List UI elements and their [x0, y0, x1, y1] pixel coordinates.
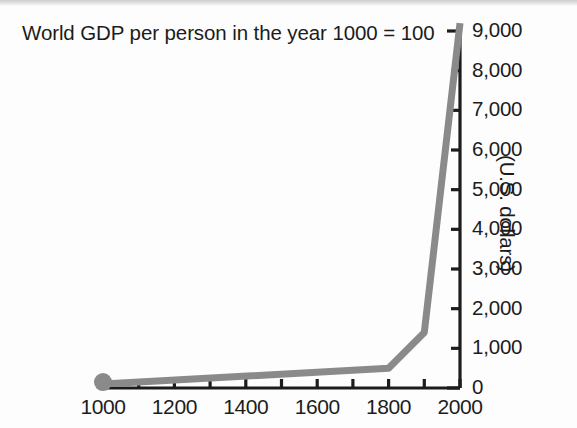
- x-tick-label: 2000: [425, 395, 495, 419]
- x-tick-label: 1400: [211, 395, 281, 419]
- axis-ticks: [103, 31, 460, 388]
- y-axis-title: (U.S. dollars): [495, 155, 519, 305]
- x-tick-label: 1000: [68, 395, 138, 419]
- data-point-marker: [94, 373, 112, 391]
- data-series-line: [103, 23, 460, 384]
- y-tick-label: 9,000: [472, 18, 522, 42]
- y-tick-label: 1,000: [472, 335, 522, 359]
- y-tick-label: 8,000: [472, 58, 522, 82]
- x-tick-label: 1200: [139, 395, 209, 419]
- x-tick-label: 1800: [354, 395, 424, 419]
- chart-figure: World GDP per person in the year 1000 = …: [0, 0, 577, 428]
- axis-lines: [103, 31, 460, 388]
- y-tick-label: 7,000: [472, 97, 522, 121]
- x-tick-label: 1600: [282, 395, 352, 419]
